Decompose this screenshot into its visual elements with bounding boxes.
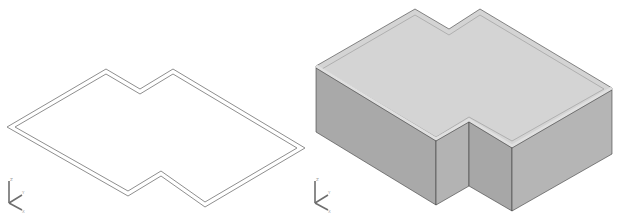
floorplan-view: Z Y X (0, 0, 310, 218)
ucs-x-label: X (22, 209, 25, 214)
ucs-x-label: X (328, 209, 331, 214)
ucs-axis-icon: Z Y X (9, 177, 25, 214)
3d-model-view: Z Y X (305, 0, 617, 218)
wall-outline-outer (7, 69, 305, 207)
extruded-walls-drawing: Z Y X (305, 0, 617, 218)
ucs-y-label: Y (21, 190, 25, 195)
ucs-y-label: Y (327, 190, 331, 195)
ucs-axis-icon: Z Y X (315, 177, 331, 214)
wall-outline-inner (15, 74, 297, 202)
floorplan-drawing: Z Y X (0, 0, 310, 218)
ucs-z-label: Z (316, 177, 319, 182)
ucs-z-label: Z (10, 177, 13, 182)
